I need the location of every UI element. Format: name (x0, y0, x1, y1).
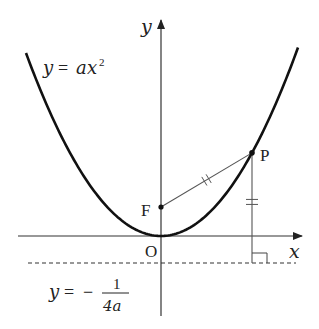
segment-fp (161, 153, 252, 207)
y-axis-label: y (140, 15, 152, 37)
svg-text:=: = (58, 58, 68, 78)
x-axis-label: x (289, 240, 300, 262)
right-angle-mark (252, 253, 267, 263)
curve-equation-label: y = a x 2 (42, 56, 105, 78)
focus-point (158, 204, 163, 209)
equal-tick (206, 174, 211, 183)
equal-tick (202, 177, 207, 186)
parabola-diagram: y x O F P y = a x 2 y = − 1 4a (0, 0, 319, 329)
origin-label: O (145, 242, 157, 261)
focus-label: F (141, 201, 150, 220)
svg-text:y: y (42, 57, 54, 78)
svg-text:x: x (87, 57, 97, 78)
svg-text:4a: 4a (102, 297, 122, 315)
point-p (249, 150, 255, 156)
directrix-equation-label: y = − 1 4a (48, 276, 129, 315)
svg-text:−: − (83, 282, 93, 302)
svg-text:1: 1 (113, 276, 121, 292)
svg-text:y: y (48, 281, 60, 302)
svg-text:a: a (76, 57, 87, 78)
svg-text:2: 2 (99, 56, 105, 68)
point-p-label: P (260, 146, 269, 165)
svg-text:=: = (64, 282, 74, 302)
